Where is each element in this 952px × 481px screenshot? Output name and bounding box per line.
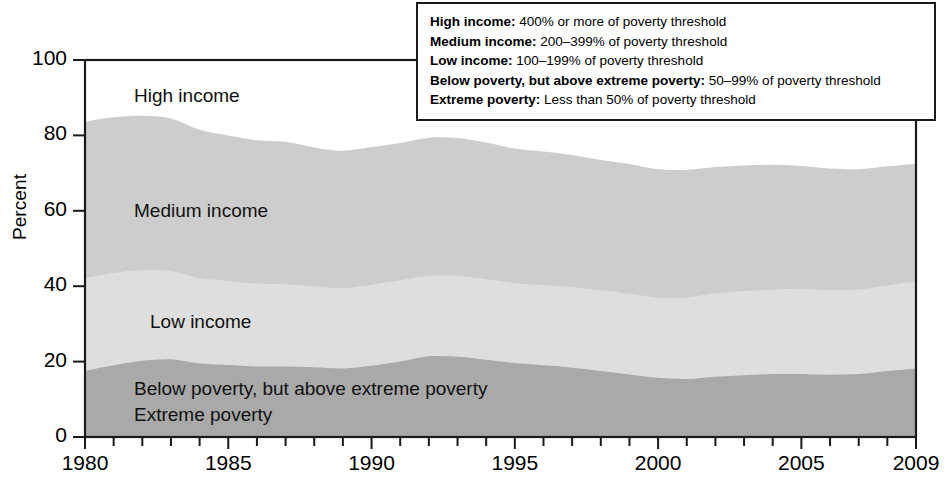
legend-row: High income: 400% or more of poverty thr… — [430, 12, 924, 32]
legend-term: Low income: — [430, 53, 513, 68]
legend-term: Medium income: — [430, 34, 537, 49]
legend-term: Extreme poverty: — [430, 92, 540, 107]
legend-row: Below poverty, but above extreme poverty… — [430, 71, 924, 91]
legend-definition: Less than 50% of poverty threshold — [540, 92, 755, 107]
x-tick-label-1990: 1990 — [327, 451, 417, 475]
x-tick-label-2009: 2009 — [871, 451, 952, 475]
band-label-low-income: Low income — [150, 311, 251, 333]
legend-term: High income: — [430, 14, 516, 29]
y-tick-label-0: 0 — [7, 423, 67, 447]
legend-definition: 100–199% of poverty threshold — [513, 53, 704, 68]
legend-row: Low income: 100–199% of poverty threshol… — [430, 51, 924, 71]
legend-definition: 50–99% of poverty threshold — [705, 73, 881, 88]
band-label-below-poverty: Below poverty, but above extreme poverty — [134, 378, 487, 400]
y-tick-label-80: 80 — [7, 121, 67, 145]
legend-row: Medium income: 200–399% of poverty thres… — [430, 32, 924, 52]
band-label-medium-income: Medium income — [134, 200, 268, 222]
x-tick-label-2005: 2005 — [756, 451, 846, 475]
y-tick-label-40: 40 — [7, 272, 67, 296]
y-tick-label-60: 60 — [7, 197, 67, 221]
x-tick-label-2000: 2000 — [613, 451, 703, 475]
legend-term: Below poverty, but above extreme poverty… — [430, 73, 705, 88]
band-label-high-income: High income — [134, 85, 240, 107]
stacked-area-chart-figure: Percent 020406080100 1980198519901995200… — [0, 0, 952, 481]
x-tick-label-1995: 1995 — [470, 451, 560, 475]
legend-row: Extreme poverty: Less than 50% of povert… — [430, 90, 924, 110]
y-tick-label-20: 20 — [7, 348, 67, 372]
x-tick-label-1985: 1985 — [183, 451, 273, 475]
legend-definition: 400% or more of poverty threshold — [516, 14, 727, 29]
legend-row-list: High income: 400% or more of poverty thr… — [430, 12, 924, 110]
legend-box: High income: 400% or more of poverty thr… — [416, 2, 936, 121]
legend-definition: 200–399% of poverty threshold — [537, 34, 728, 49]
y-tick-label-100: 100 — [7, 46, 67, 70]
band-label-extreme-poverty: Extreme poverty — [134, 404, 272, 426]
x-tick-label-1980: 1980 — [40, 451, 130, 475]
